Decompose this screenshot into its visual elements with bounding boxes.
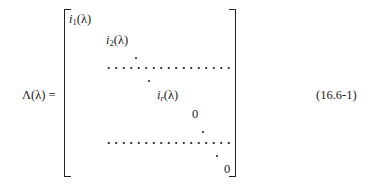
diagonal-dot: [216, 155, 218, 157]
separator-dotted-row-1: [105, 67, 232, 69]
diagonal-dot: [148, 80, 150, 82]
left-bracket: [64, 9, 71, 177]
diagonal-dot: [202, 131, 204, 133]
separator-dotted-row-2: [105, 142, 232, 144]
equation-lhs: Λ(λ) =: [22, 89, 56, 102]
matrix-entry-ir: ir(λ): [157, 89, 178, 102]
right-bracket: [229, 9, 236, 177]
matrix-entry-i1: i1(λ): [69, 13, 91, 26]
matrix-entry-zero-1: 0: [192, 108, 198, 121]
diagonal-dot: [135, 57, 137, 59]
matrix-entry-zero-2: 0: [224, 163, 230, 176]
matrix-entry-i2: i2(λ): [106, 34, 128, 47]
equation-number: (16.6-1): [316, 89, 357, 102]
